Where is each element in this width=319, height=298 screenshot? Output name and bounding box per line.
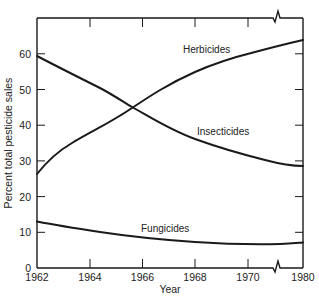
y-tick-20: 20: [19, 191, 31, 203]
herbicides-line: [37, 40, 303, 174]
y-tick-labels: 0 10 20 30 40 50 60: [19, 48, 31, 274]
x-tick-labels: 1962 1964 1966 1968 1970 1980: [25, 271, 315, 283]
y-tick-30: 30: [19, 155, 31, 167]
x-tick-1970: 1970: [236, 271, 260, 283]
chart-svg: 0 10 20 30 40 50 60 1962 1964 1966 1968 …: [0, 0, 319, 298]
y-tick-50: 50: [19, 84, 31, 96]
fungicides-label: Fungicides: [141, 223, 189, 234]
x-tick-1968: 1968: [183, 271, 207, 283]
insecticides-line: [37, 56, 303, 166]
series-lines: [37, 40, 303, 244]
top-axis: [37, 11, 303, 22]
y-tick-10: 10: [19, 226, 31, 238]
x-tick-1964: 1964: [78, 271, 102, 283]
x-tick-1966: 1966: [131, 271, 155, 283]
insecticides-label: Insecticides: [197, 126, 249, 137]
pesticide-sales-chart: 0 10 20 30 40 50 60 1962 1964 1966 1968 …: [0, 0, 319, 298]
herbicides-label: Herbicides: [183, 44, 230, 55]
x-axis-title: Year: [159, 283, 181, 295]
y-tick-60: 60: [19, 48, 31, 60]
x-tick-1980: 1980: [291, 271, 315, 283]
x-tick-1962: 1962: [25, 271, 49, 283]
bottom-axis: [37, 261, 303, 272]
y-tick-40: 40: [19, 119, 31, 131]
y-axis-title: Percent total pesticide sales: [2, 78, 14, 209]
